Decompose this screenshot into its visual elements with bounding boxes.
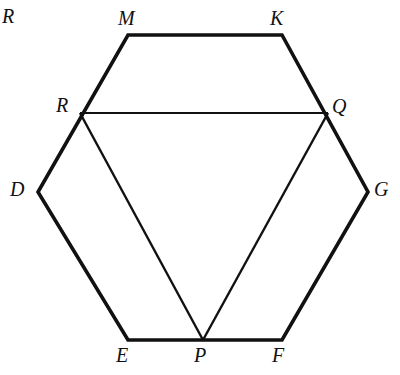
label-E: E <box>116 345 128 365</box>
label-G: G <box>374 179 388 199</box>
label-D: D <box>10 179 24 199</box>
hexagon-outline <box>38 35 368 340</box>
label-R: R <box>56 95 68 115</box>
label-Q: Q <box>332 96 346 116</box>
segment-rp <box>80 113 203 340</box>
segment-qp <box>203 113 328 340</box>
geometry-canvas <box>0 0 400 375</box>
geometry-figure: RMKRQDGEPF <box>0 0 400 375</box>
label-K: K <box>270 8 283 28</box>
label-P: P <box>194 345 206 365</box>
label-corner-R: R <box>2 6 14 26</box>
label-F: F <box>272 345 284 365</box>
label-M: M <box>118 8 135 28</box>
